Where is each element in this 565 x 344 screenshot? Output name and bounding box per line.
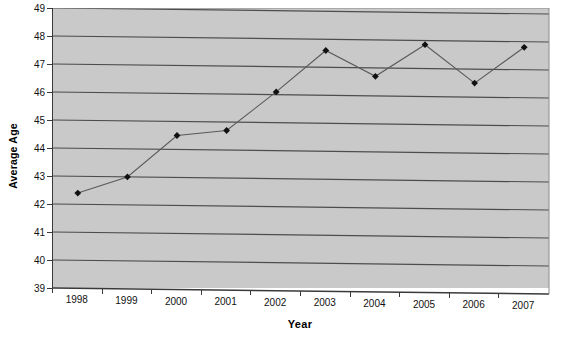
x-tick-label: 2005 bbox=[401, 299, 447, 310]
x-tick-mark bbox=[399, 292, 400, 297]
x-tick-mark bbox=[300, 291, 301, 296]
x-tick-mark bbox=[350, 292, 351, 297]
chart-container: Average Age 3940414243444546474849 1998:… bbox=[0, 0, 565, 344]
y-tick-label: 44 bbox=[0, 143, 52, 154]
x-axis-title: Year bbox=[52, 318, 548, 330]
x-tick-label: 2003 bbox=[302, 297, 348, 308]
x-tick-mark bbox=[498, 293, 499, 298]
x-tick-mark bbox=[52, 288, 53, 293]
x-tick-label: 2006 bbox=[451, 299, 497, 310]
x-tick-mark bbox=[250, 290, 251, 295]
x-tick-label: 2000 bbox=[153, 296, 199, 307]
y-tick-label: 48 bbox=[0, 31, 52, 42]
x-tick-label: 1998 bbox=[54, 294, 100, 305]
y-tick-label: 39 bbox=[0, 283, 52, 294]
x-tick-label: 2001 bbox=[203, 296, 249, 307]
y-tick-label: 42 bbox=[0, 199, 52, 210]
x-tick-mark bbox=[151, 289, 152, 294]
x-tick-label: 2002 bbox=[252, 297, 298, 308]
y-tick-label: 41 bbox=[0, 227, 52, 238]
y-tick-label: 43 bbox=[0, 171, 52, 182]
plot-frame bbox=[53, 8, 551, 298]
y-tick-label: 45 bbox=[0, 115, 52, 126]
y-tick-label: 46 bbox=[0, 87, 52, 98]
y-tick-label: 40 bbox=[0, 255, 52, 266]
x-tick-label: 1999 bbox=[103, 295, 149, 306]
x-tick-label: 2004 bbox=[351, 298, 397, 309]
plot-area: 1998: 42.41999: 432000: 44.52001: 44.720… bbox=[52, 8, 549, 288]
x-tick-mark bbox=[102, 289, 103, 294]
x-tick-label: 2007 bbox=[500, 300, 546, 311]
x-tick-mark bbox=[201, 290, 202, 295]
y-tick-label: 49 bbox=[0, 3, 52, 14]
x-tick-mark bbox=[449, 293, 450, 298]
y-tick-label: 47 bbox=[0, 59, 52, 70]
